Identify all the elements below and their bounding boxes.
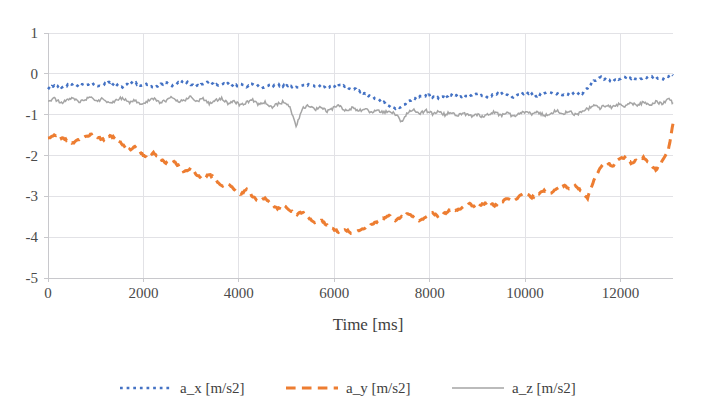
y-tick-label: 0	[31, 66, 39, 82]
chart-container: 10-1-2-3-4-5 020004000600080001000012000…	[0, 0, 704, 414]
x-tick-label: 10000	[506, 285, 544, 301]
y-tick-label: -5	[26, 270, 39, 286]
x-tick-label: 8000	[415, 285, 445, 301]
y-tick-label: -3	[26, 188, 39, 204]
chart-background	[0, 0, 704, 414]
x-tick-label: 2000	[128, 285, 158, 301]
x-tick-label: 6000	[319, 285, 349, 301]
y-tick-label: -4	[26, 229, 39, 245]
y-tick-label: -2	[26, 148, 39, 164]
x-axis-title: Time [ms]	[333, 315, 404, 334]
legend-label: a_z [m/s2]	[512, 380, 576, 396]
x-tick-label: 0	[44, 285, 52, 301]
x-tick-label: 12000	[602, 285, 640, 301]
x-tick-label: 4000	[224, 285, 254, 301]
y-tick-label: 1	[31, 25, 39, 41]
legend-label: a_x [m/s2]	[180, 380, 245, 396]
acceleration-time-chart: 10-1-2-3-4-5 020004000600080001000012000…	[0, 0, 704, 414]
legend-label: a_y [m/s2]	[346, 380, 411, 396]
y-tick-label: -1	[26, 107, 39, 123]
